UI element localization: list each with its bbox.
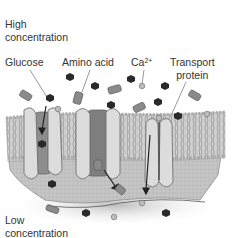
membrane-illustration [0, 0, 233, 238]
amino-pointer [82, 70, 90, 92]
calcium-pointer [142, 70, 144, 84]
